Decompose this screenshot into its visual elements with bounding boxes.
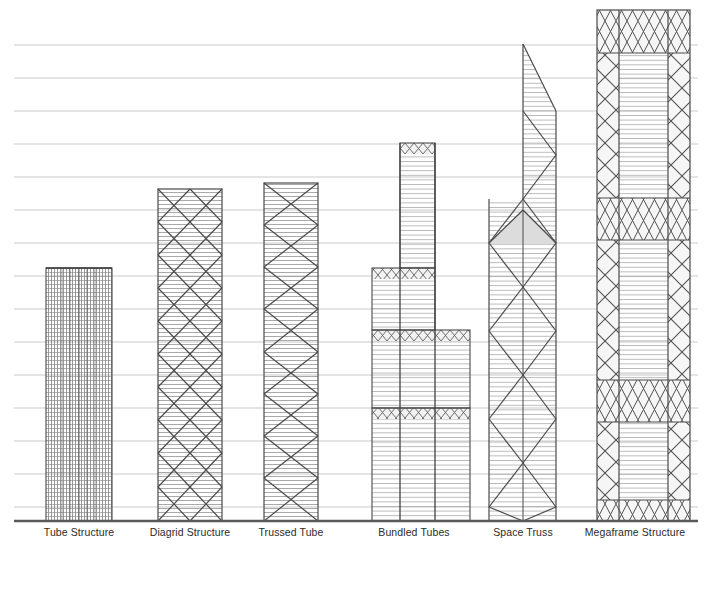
- tall-building-structural-systems-diagram: [0, 0, 712, 597]
- diagram-canvas: Tube Structure Diagrid Structure Trussed…: [0, 0, 712, 597]
- axis-label-trussed-tube: Trussed Tube: [258, 526, 323, 538]
- axis-label-tube-structure: Tube Structure: [44, 526, 114, 538]
- tower-megaframe-structure: [597, 10, 690, 521]
- horizontal-gridlines: [14, 45, 698, 507]
- tower-diagrid-structure: [158, 189, 222, 521]
- axis-label-megaframe-structure: Megaframe Structure: [585, 526, 686, 538]
- axis-label-space-truss: Space Truss: [493, 526, 552, 538]
- tower-tube-structure: [46, 268, 112, 521]
- axis-label-bundled-tubes: Bundled Tubes: [378, 526, 449, 538]
- tower-space-truss: [489, 44, 556, 521]
- tower-bundled-tubes: [372, 143, 470, 521]
- axis-label-diagrid-structure: Diagrid Structure: [150, 526, 230, 538]
- tower-trussed-tube: [264, 183, 318, 521]
